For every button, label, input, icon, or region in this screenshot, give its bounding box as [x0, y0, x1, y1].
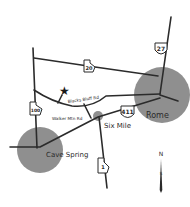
svg-text:S: S: [160, 171, 163, 176]
svg-text:100: 100: [31, 108, 40, 113]
highway-20-road: [34, 58, 158, 76]
shield-state-100: 100: [30, 102, 42, 115]
city-area-cave-spring: [17, 127, 63, 173]
shield-state-20: 20: [84, 60, 95, 72]
svg-text:1: 1: [101, 164, 105, 170]
shield-state-1: 1: [98, 158, 109, 173]
svg-text:20: 20: [86, 65, 93, 71]
svg-text:27: 27: [157, 45, 165, 52]
walker-mtn-road: [84, 104, 91, 118]
shield-us-411: 411: [121, 106, 134, 118]
road-map: ★ 27 20 100 411 1 Rome Cave Spring Six M…: [0, 0, 190, 207]
compass-icon: N S: [159, 150, 164, 193]
walker-mtn-road-label: Walker Mtn Rd: [52, 116, 83, 121]
destination-star-icon: ★: [59, 84, 70, 98]
six-mile-label: Six Mile: [104, 122, 131, 130]
cave-spring-label: Cave Spring: [46, 151, 88, 159]
svg-text:411: 411: [121, 108, 134, 115]
shield-us-27: 27: [155, 43, 167, 54]
svg-text:N: N: [159, 150, 164, 157]
rome-label: Rome: [146, 111, 169, 120]
